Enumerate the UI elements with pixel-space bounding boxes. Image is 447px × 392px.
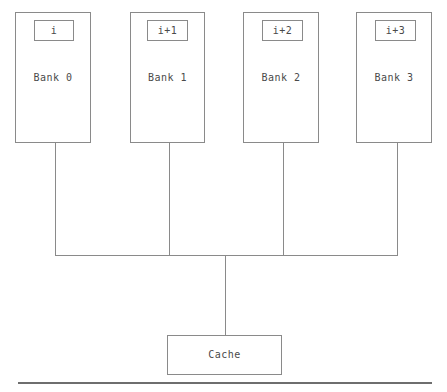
- bank-stem-1: [169, 143, 170, 256]
- bank-index-box-0: i: [34, 20, 74, 41]
- bottom-divider: [18, 382, 432, 384]
- bank-name-label-2: Bank 2: [243, 73, 319, 83]
- bank-index-box-2: i+2: [262, 20, 303, 41]
- bank-index-label-0: i: [51, 26, 58, 36]
- bank-name-label-1: Bank 1: [130, 73, 205, 83]
- bank-index-label-1: i+1: [158, 26, 178, 36]
- bank-index-label-2: i+2: [273, 26, 293, 36]
- cache-label: Cache: [208, 350, 241, 360]
- bank-index-box-1: i+1: [147, 20, 188, 41]
- bank-cache-diagram: i Bank 0 i+1 Bank 1 i+2 Bank 2 i+3 Bank …: [0, 0, 447, 392]
- bank-index-label-3: i+3: [386, 26, 406, 36]
- bank-index-box-3: i+3: [375, 20, 416, 41]
- bank-stem-2: [283, 143, 284, 256]
- bank-stem-0: [55, 143, 56, 256]
- memory-bus-line: [55, 255, 398, 256]
- bank-name-label-3: Bank 3: [356, 73, 432, 83]
- bank-stem-3: [397, 143, 398, 256]
- cache-box[interactable]: Cache: [167, 335, 282, 375]
- cache-connector-line: [225, 255, 226, 335]
- bank-name-label-0: Bank 0: [15, 73, 91, 83]
